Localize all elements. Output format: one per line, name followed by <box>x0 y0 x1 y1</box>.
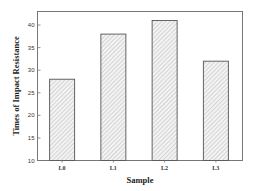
y-tick-label: 20 <box>28 112 35 118</box>
bars <box>50 21 229 161</box>
y-axis-ticks: 10152025303540 <box>28 22 41 163</box>
y-tick-label: 15 <box>28 135 35 141</box>
y-tick-label: 25 <box>28 90 35 96</box>
x-axis-title: Sample <box>127 175 154 185</box>
y-tick-label: 40 <box>28 22 35 28</box>
bar-chart: 10152025303540 L0L1L2L3 Sample Times of … <box>0 0 255 191</box>
x-category-label: L3 <box>212 165 219 171</box>
y-tick-label: 35 <box>28 45 35 51</box>
x-category-label: L0 <box>59 165 66 171</box>
x-category-label: L2 <box>161 165 168 171</box>
y-tick-label: 10 <box>28 158 35 164</box>
bar-l2 <box>152 21 177 161</box>
y-axis-title: Times of Impact Resistance <box>11 36 21 136</box>
x-axis-labels: L0L1L2L3 <box>59 161 220 171</box>
bar-l1 <box>101 34 126 160</box>
bar-l3 <box>203 61 228 160</box>
x-category-label: L1 <box>110 165 117 171</box>
y-tick-label: 30 <box>28 67 35 73</box>
bar-l0 <box>50 79 75 160</box>
